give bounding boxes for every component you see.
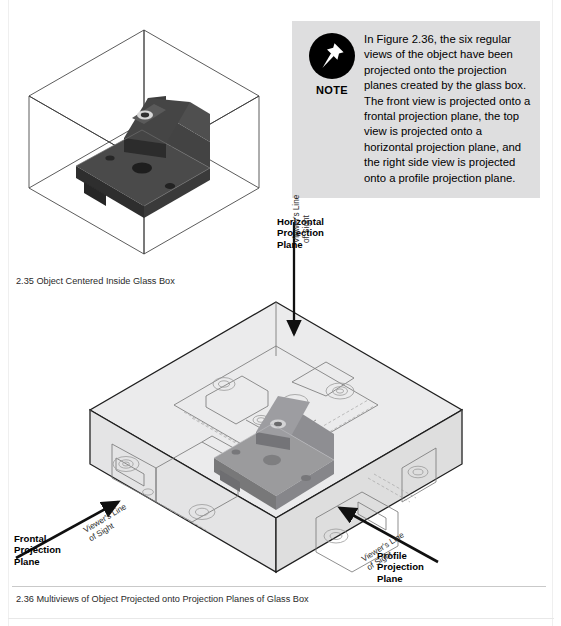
solid-object [76, 96, 210, 218]
note-label: NOTE [302, 84, 362, 96]
page-margin-line-bottom [8, 618, 554, 619]
note-body-text: In Figure 2.36, the six regular views of… [364, 32, 532, 186]
note-callout: NOTE In Figure 2.36, the six regular vie… [292, 21, 540, 198]
figure-2-36-caption: 2.36 Multiviews of Object Projected onto… [16, 594, 309, 604]
label-frontal-projection-plane: Frontal Projection Plane [14, 533, 61, 567]
document-page: 2.35 Object Centered Inside Glass Box NO… [0, 0, 561, 626]
push-pin-icon [309, 33, 355, 79]
figure-2-36-caption-rule [12, 586, 546, 587]
label-viewers-line-of-sight-top: Viewer's Line of Sight [292, 195, 311, 243]
note-icon-group: NOTE [302, 33, 362, 96]
